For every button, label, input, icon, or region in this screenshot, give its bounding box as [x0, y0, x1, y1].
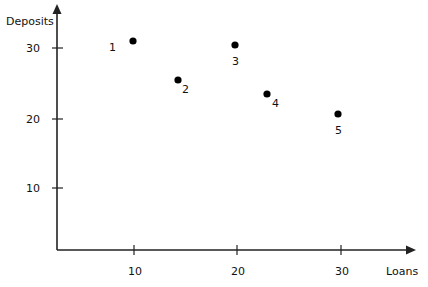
- point-label-3: 3: [232, 55, 239, 68]
- data-point-3: [231, 41, 238, 48]
- y-tick-label-30: 30: [26, 42, 40, 55]
- scatter-chart: 30 20 10 10 20 30 Deposits Loans 1 2 3 4…: [0, 0, 428, 287]
- x-tick-label-10: 10: [128, 265, 142, 278]
- point-label-1: 1: [109, 41, 116, 54]
- data-point-2: [174, 76, 181, 83]
- y-axis-title: Deposits: [6, 15, 54, 28]
- data-point-1: [129, 37, 136, 44]
- point-label-2: 2: [182, 83, 189, 96]
- y-axis-arrow-icon: [53, 4, 62, 14]
- y-tick-label-20: 20: [26, 113, 40, 126]
- point-label-5: 5: [335, 124, 342, 137]
- x-tick-label-30: 30: [335, 265, 349, 278]
- x-tick-label-20: 20: [231, 265, 245, 278]
- data-point-4: [263, 90, 270, 97]
- y-tick-label-10: 10: [26, 182, 40, 195]
- data-point-5: [334, 110, 341, 117]
- x-axis-title: Loans: [386, 265, 418, 278]
- x-axis-arrow-icon: [406, 246, 416, 255]
- point-label-4: 4: [272, 97, 279, 110]
